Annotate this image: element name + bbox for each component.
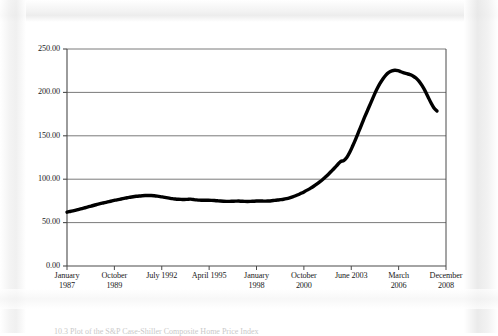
axis-lines-group [67, 49, 446, 266]
x-axis-label-line1: January [55, 271, 80, 280]
x-axis-label-line1: June 2003 [335, 271, 368, 280]
x-axis-label-line2: 2008 [413, 281, 479, 291]
x-axis-label-line2: 1989 [81, 281, 147, 291]
y-axis-label-100-00: 100.00 [12, 174, 60, 183]
y-axis-label-0-00: 0.00 [12, 261, 60, 270]
x-axis-label-line1: October [291, 271, 317, 280]
x-axis-label-line1: April 1995 [192, 271, 227, 280]
x-axis-label-line1: December [430, 271, 463, 280]
y-axis-label-200-00: 200.00 [12, 87, 60, 96]
y-tick-marks-group [63, 49, 67, 266]
data-line-home-price-index [67, 70, 437, 212]
x-axis-label-line1: January [244, 271, 269, 280]
y-axis-label-50-00: 50.00 [12, 217, 60, 226]
gridlines-group [67, 49, 446, 223]
x-axis-label-december-2008: December2008 [413, 271, 479, 290]
y-axis-label-150-00: 150.00 [12, 131, 60, 140]
x-axis-label-line2: 2000 [271, 281, 337, 291]
figure-caption: 10.3 Plot of the S&P Case-Shiller Compos… [54, 327, 474, 336]
x-axis-label-line1: March [388, 271, 409, 280]
y-axis-label-250-00: 250.00 [12, 44, 60, 53]
x-tick-marks-group [67, 266, 446, 270]
x-axis-label-line1: July 1992 [146, 271, 177, 280]
x-axis-label-line1: October [102, 271, 128, 280]
